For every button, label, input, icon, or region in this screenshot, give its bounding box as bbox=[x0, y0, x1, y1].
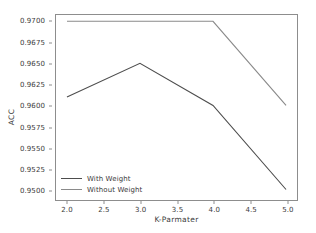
plot-area: With WeightWithout Weight bbox=[55, 14, 298, 201]
x-tick-label: 4.0 bbox=[209, 206, 220, 214]
y-tick-mark bbox=[49, 148, 52, 149]
legend-swatch bbox=[61, 178, 82, 179]
y-tick-mark bbox=[49, 42, 52, 43]
y-tick-label: 0.9675 bbox=[20, 39, 45, 47]
x-tick-mark bbox=[251, 201, 252, 204]
legend-item: Without Weight bbox=[61, 184, 142, 195]
x-tick-mark bbox=[287, 201, 288, 204]
x-tick-mark bbox=[67, 201, 68, 204]
x-tick-label: 2.5 bbox=[98, 206, 109, 214]
legend-swatch bbox=[61, 189, 82, 190]
x-axis-label: K-Parmater bbox=[55, 215, 298, 224]
legend-label: Without Weight bbox=[87, 186, 142, 194]
y-tick-label: 0.9525 bbox=[20, 166, 45, 174]
y-axis-tick-labels: 0.95000.95250.95500.95750.96000.96250.96… bbox=[0, 14, 52, 201]
x-tick-mark bbox=[177, 201, 178, 204]
x-tick-mark bbox=[214, 201, 215, 204]
legend-label: With Weight bbox=[87, 175, 131, 183]
y-tick-mark bbox=[49, 191, 52, 192]
legend-item: With Weight bbox=[61, 173, 142, 184]
chart-figure: ACC 0.95000.95250.95500.95750.96000.9625… bbox=[0, 0, 316, 233]
y-tick-label: 0.9575 bbox=[20, 124, 45, 132]
y-tick-mark bbox=[49, 127, 52, 128]
y-tick-mark bbox=[49, 170, 52, 171]
x-tick-label: 5.0 bbox=[282, 206, 293, 214]
x-tick-mark bbox=[140, 201, 141, 204]
series-line bbox=[67, 21, 286, 105]
y-tick-mark bbox=[49, 85, 52, 86]
y-tick-mark bbox=[49, 63, 52, 64]
y-tick-label: 0.9625 bbox=[20, 81, 45, 89]
y-tick-label: 0.9500 bbox=[20, 187, 45, 195]
y-tick-label: 0.9700 bbox=[20, 17, 45, 25]
y-tick-mark bbox=[49, 21, 52, 22]
series-line bbox=[67, 63, 286, 189]
x-tick-label: 3.5 bbox=[172, 206, 183, 214]
x-tick-mark bbox=[103, 201, 104, 204]
x-tick-label: 2.0 bbox=[61, 206, 72, 214]
y-tick-label: 0.9650 bbox=[20, 60, 45, 68]
x-tick-label: 3.0 bbox=[135, 206, 146, 214]
x-tick-label: 4.5 bbox=[245, 206, 256, 214]
y-tick-label: 0.9600 bbox=[20, 102, 45, 110]
y-tick-mark bbox=[49, 106, 52, 107]
y-tick-label: 0.9550 bbox=[20, 145, 45, 153]
chart-legend: With WeightWithout Weight bbox=[61, 173, 142, 195]
